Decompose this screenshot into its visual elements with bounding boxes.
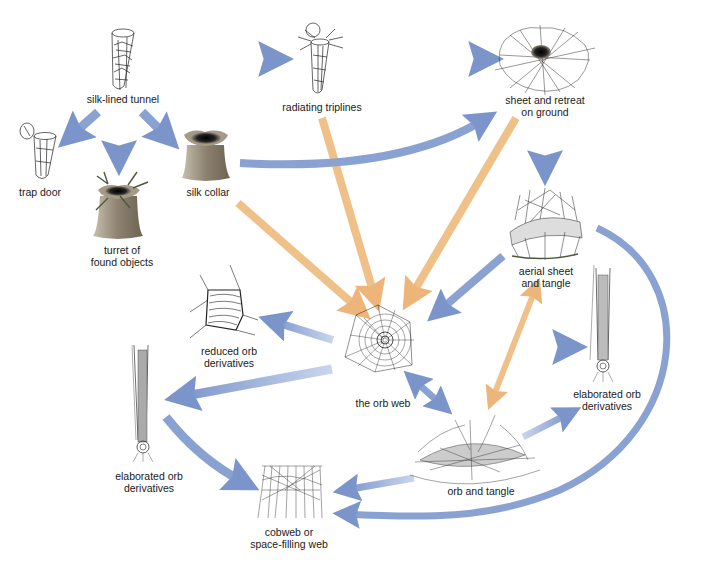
label-line: elaborated orb [115,470,183,482]
label-sheet-retreat: sheet and retreat on ground [505,94,584,118]
orb-and-tangle-icon [410,415,540,484]
label-line: and tangle [519,277,573,289]
label-line: derivatives [201,357,257,369]
label-trap-door: trap door [19,186,61,198]
arrow-orbtangle-to-cobweb [345,478,414,490]
label-line: aerial sheet [519,265,573,277]
arrow-collar-to-sheet [240,119,485,164]
label-line: reduced orb [201,345,257,357]
arrow-aerial-to-orb [438,256,503,312]
label-cobweb: cobweb or space-filling web [250,526,328,550]
arrow-orb-to-elaborated-left [180,369,332,397]
label-line: derivatives [573,400,641,412]
label-orb-web: the orb web [356,397,411,409]
label-line: cobweb or [250,526,328,538]
label-elaborated-orb-right: elaborated orb derivatives [573,388,641,412]
label-aerial-sheet: aerial sheet and tangle [519,265,573,289]
arrow-orb-to-reduced [272,321,333,340]
arrow-triplines-to-orb [322,118,375,298]
label-line: turret of [91,244,153,256]
arrow-orbtangle-to-elaborated-right [523,413,570,437]
label-turret: turret of found objects [91,244,153,268]
label-line: found objects [91,256,153,268]
label-silk-lined-tunnel: silk-lined tunnel [87,93,159,105]
silk-collar-icon [182,131,230,181]
label-radiating-triplines: radiating triplines [282,101,361,113]
radiating-triplines-icon [298,23,343,93]
arrow-tunnel-to-trapdoor [70,112,98,137]
reduced-orb-icon [190,265,258,338]
aerial-sheet-tangle-icon [510,188,582,260]
arrow-collar-to-orb [238,203,360,310]
elaborated-orb-right-icon [590,265,613,382]
orb-web-icon [345,305,414,372]
arrow-tunnel-to-collar [142,112,168,138]
label-reduced-orb: reduced orb derivatives [201,345,257,369]
trap-door-icon [20,123,56,179]
label-line: on ground [505,106,584,118]
sheet-and-retreat-icon [495,25,595,95]
cobweb-icon [258,466,322,518]
label-elaborated-orb-left: elaborated orb derivatives [115,470,183,494]
label-line: derivatives [115,482,183,494]
elaborated-orb-left-icon [132,345,153,462]
silk-lined-tunnel-icon [112,29,134,90]
orange-arrows [238,118,535,400]
label-orb-tangle: orb and tangle [447,485,514,497]
label-line: space-filling web [250,538,328,550]
label-silk-collar: silk collar [186,186,229,198]
arrow-orb-orbtangle-bidir [415,381,443,406]
label-line: elaborated orb [573,388,641,400]
turret-icon [93,172,148,239]
label-line: sheet and retreat [505,94,584,106]
diagram-canvas [0,0,705,562]
